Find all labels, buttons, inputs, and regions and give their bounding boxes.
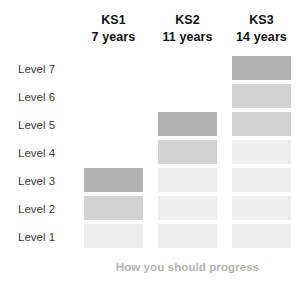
cell-ks3-level-7	[232, 56, 291, 80]
chart-caption: How you should progress	[84, 261, 291, 273]
column-header-ks3-age: 14 years	[232, 29, 291, 46]
row-cells	[84, 223, 291, 251]
row-cells	[84, 83, 291, 111]
cell-ks3-level-6	[232, 84, 291, 108]
progress-chart: KS1 7 years KS2 11 years KS3 14 years Le…	[0, 0, 307, 286]
row-label-level-3: Level 3	[18, 167, 78, 195]
cell-ks1-level-2	[84, 196, 143, 220]
cell-ks2-level-5	[158, 112, 217, 136]
cell-ks3-level-3	[232, 168, 291, 192]
cell-ks2-level-4	[158, 140, 217, 164]
column-header-ks1-name: KS1	[84, 12, 143, 29]
row-cells	[84, 111, 291, 139]
chart-row: Level 3	[0, 167, 307, 195]
row-cells	[84, 139, 291, 167]
cell-ks2-level-7	[158, 56, 217, 80]
column-header-ks2: KS2 11 years	[158, 12, 217, 52]
cell-ks1-level-4	[84, 140, 143, 164]
column-header-ks2-name: KS2	[158, 12, 217, 29]
cell-ks3-level-4	[232, 140, 291, 164]
chart-row: Level 1	[0, 223, 307, 251]
cell-ks1-level-7	[84, 56, 143, 80]
plot-area: Level 7Level 6Level 5Level 4Level 3Level…	[0, 55, 307, 251]
row-cells	[84, 55, 291, 83]
row-cells	[84, 195, 291, 223]
row-label-level-2: Level 2	[18, 195, 78, 223]
row-label-level-6: Level 6	[18, 83, 78, 111]
row-label-level-5: Level 5	[18, 111, 78, 139]
cell-ks3-level-5	[232, 112, 291, 136]
row-cells	[84, 167, 291, 195]
column-header-ks1-age: 7 years	[84, 29, 143, 46]
cell-ks2-level-3	[158, 168, 217, 192]
cell-ks3-level-2	[232, 196, 291, 220]
column-header-ks3-name: KS3	[232, 12, 291, 29]
cell-ks1-level-3	[84, 168, 143, 192]
cell-ks1-level-5	[84, 112, 143, 136]
cell-ks1-level-6	[84, 84, 143, 108]
cell-ks2-level-1	[158, 224, 217, 248]
row-label-level-1: Level 1	[18, 223, 78, 251]
chart-row: Level 4	[0, 139, 307, 167]
chart-row: Level 7	[0, 55, 307, 83]
cell-ks1-level-1	[84, 224, 143, 248]
cell-ks3-level-1	[232, 224, 291, 248]
column-header-row: KS1 7 years KS2 11 years KS3 14 years	[84, 12, 291, 52]
row-label-level-7: Level 7	[18, 55, 78, 83]
column-header-ks3: KS3 14 years	[232, 12, 291, 52]
cell-ks2-level-6	[158, 84, 217, 108]
chart-row: Level 2	[0, 195, 307, 223]
column-header-ks1: KS1 7 years	[84, 12, 143, 52]
column-header-ks2-age: 11 years	[158, 29, 217, 46]
chart-row: Level 5	[0, 111, 307, 139]
chart-row: Level 6	[0, 83, 307, 111]
row-label-level-4: Level 4	[18, 139, 78, 167]
cell-ks2-level-2	[158, 196, 217, 220]
